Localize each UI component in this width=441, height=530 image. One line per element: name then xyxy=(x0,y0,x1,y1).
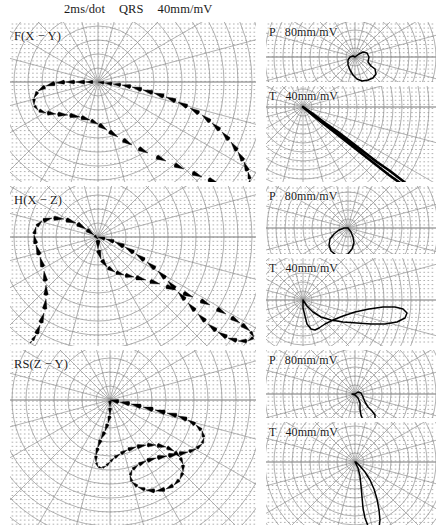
panel-label-rightsagittal-p: P xyxy=(269,353,276,367)
panel-frontal-p: P80mm/mV xyxy=(266,22,436,82)
frontal-qrs-plot xyxy=(10,22,256,182)
figure-header: 2ms/dot QRS 40mm/mV xyxy=(0,2,441,20)
panel-gain-horizontal-p: 80mm/mV xyxy=(285,189,338,203)
horizontal-qrs-plot xyxy=(10,186,256,346)
panel-label-rightsagittal-t: T xyxy=(269,425,276,439)
panel-frontal-qrs: F(X − Y) xyxy=(10,22,256,182)
panel-rightsagittal-t: T40mm/mV xyxy=(266,422,436,525)
panel-horizontal-p: P80mm/mV xyxy=(266,186,436,254)
panel-label-horizontal-p: P xyxy=(269,189,276,203)
panel-rightsagittal-qrs: RS(Z − Y) xyxy=(10,350,256,525)
panel-label-horizontal: H(X − Z) xyxy=(14,194,62,207)
panel-gain-rightsagittal-t: 40mm/mV xyxy=(285,425,338,439)
panel-label-frontal-t: T xyxy=(269,89,276,103)
panel-label-frontal: F(X − Y) xyxy=(14,30,61,43)
panel-rightsagittal-p: P80mm/mV xyxy=(266,350,436,418)
panel-gain-horizontal-t: 40mm/mV xyxy=(285,261,338,275)
panel-gain-frontal-p: 80mm/mV xyxy=(285,25,338,39)
header-gain-label: 40mm/mV xyxy=(158,2,213,17)
panel-horizontal-t: T40mm/mV xyxy=(266,258,436,346)
panel-label-horizontal-t: T xyxy=(269,261,276,275)
header-component-label: QRS xyxy=(119,2,144,17)
panel-label-frontal-p: P xyxy=(269,25,276,39)
panel-horizontal-qrs: H(X − Z) xyxy=(10,186,256,346)
rightsagittal-qrs-plot xyxy=(10,350,256,525)
panel-gain-frontal-t: 40mm/mV xyxy=(285,89,338,103)
panel-frontal-t: T40mm/mV xyxy=(266,86,436,182)
header-speed-label: 2ms/dot xyxy=(64,2,105,17)
panel-gain-rightsagittal-p: 80mm/mV xyxy=(285,353,338,367)
figure-root: 2ms/dot QRS 40mm/mV F(X − Y) H(X − Z) RS… xyxy=(0,0,441,530)
panel-label-rightsagittal: RS(Z − Y) xyxy=(14,358,68,371)
